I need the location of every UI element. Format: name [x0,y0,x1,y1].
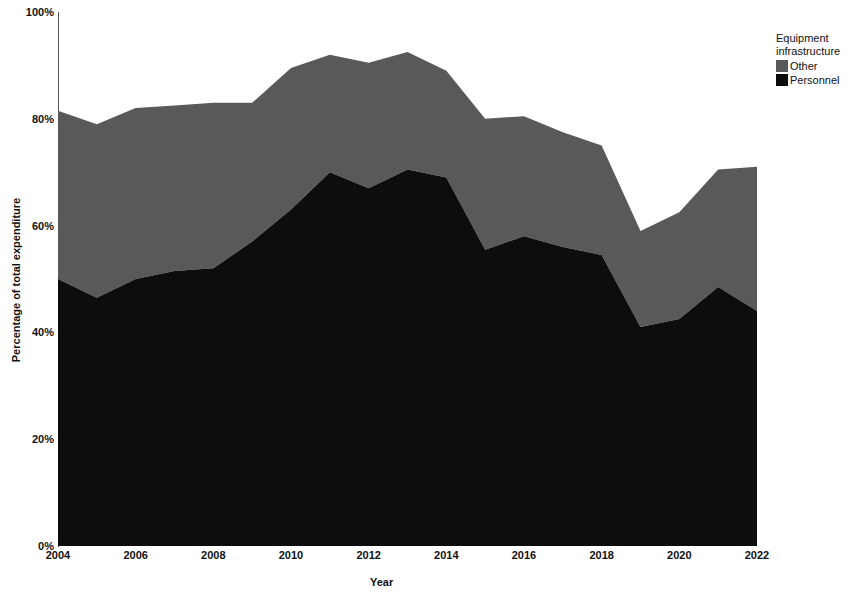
x-axis-tick-label: 2014 [416,549,476,561]
x-axis-tick-label: 2012 [339,549,399,561]
legend-item-other[interactable]: Other [776,59,853,73]
x-axis-tick-label: 2018 [572,549,632,561]
legend-label-other: Other [790,60,818,72]
legend-title-line-2: infrastructure [776,45,853,58]
x-axis-tick-label: 2016 [494,549,554,561]
legend-label-personnel: Personnel [790,74,840,86]
legend-title: Equipment infrastructure [776,32,853,58]
x-axis-tick-label: 2022 [727,549,787,561]
x-axis-tick-label: 2006 [106,549,166,561]
stacked-area-chart-figure: 100%80%60%40%20%0% 200420062008201020122… [0,0,853,593]
y-axis-title: Percentage of total expenditure [10,190,22,370]
chart-legend: Equipment infrastructure Other Personnel [776,32,853,87]
legend-swatch-personnel-icon [776,74,788,86]
x-axis-tick-labels: 2004200620082010201220142016201820202022 [0,0,853,593]
x-axis-tick-label: 2004 [28,549,88,561]
legend-swatch-other-icon [776,60,788,72]
x-axis-title: Year [370,576,393,588]
legend-item-personnel[interactable]: Personnel [776,73,853,87]
legend-title-line-1: Equipment [776,32,853,45]
x-axis-tick-label: 2008 [183,549,243,561]
x-axis-tick-label: 2020 [649,549,709,561]
x-axis-tick-label: 2010 [261,549,321,561]
